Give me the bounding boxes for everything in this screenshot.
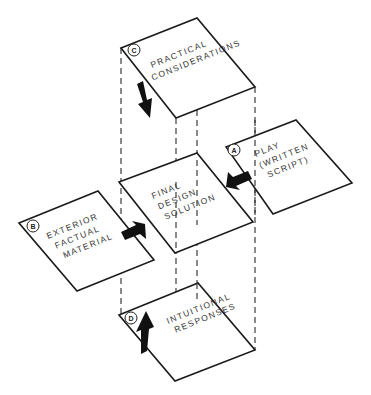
- svg-text:D: D: [129, 315, 134, 322]
- badge-b: B: [27, 220, 39, 232]
- badge-a: A: [228, 144, 240, 156]
- design-process-diagram: D INTUITIONAL RESPONSES B EXTERIOR FACTU…: [0, 0, 371, 395]
- badge-d: D: [125, 312, 137, 324]
- svg-text:B: B: [31, 223, 36, 230]
- panel-practical-considerations: C PRACTICAL CONSIDERATIONS: [121, 18, 255, 118]
- arrow-left-icon: [226, 171, 252, 190]
- panel-intuitional-responses: D INTUITIONAL RESPONSES: [119, 283, 255, 381]
- svg-text:C: C: [132, 47, 137, 54]
- svg-text:A: A: [232, 147, 237, 154]
- badge-c: C: [128, 44, 140, 56]
- panel-play-written-script: A PLAY (WRITTEN SCRIPT): [226, 120, 352, 215]
- panel-exterior-factual-material: B EXTERIOR FACTUAL MATERIAL: [19, 191, 154, 291]
- panel-final-design-solution: FINAL DESIGN SOLUTION: [119, 153, 253, 253]
- arrow-down-icon: [137, 81, 152, 118]
